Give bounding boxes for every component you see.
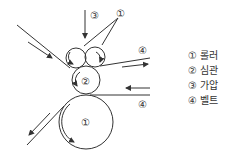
small-roller-right	[85, 47, 105, 67]
label-core: ②	[81, 76, 90, 87]
legend-text: 심관	[200, 65, 218, 76]
legend-text: 벨트	[200, 95, 218, 106]
label-pressure: ③	[90, 10, 99, 21]
legend-item-core: ② 심관	[188, 63, 218, 78]
label-roller-big: ①	[81, 117, 90, 128]
rotation-arrow-core	[75, 72, 80, 86]
legend-num: ④	[188, 95, 197, 106]
output-line-bottom-left	[27, 106, 64, 145]
leader-line	[84, 18, 118, 46]
legend-text: 가압	[200, 80, 218, 91]
legend-item-roller: ① 롤러	[188, 48, 218, 63]
label-belt-top: ④	[138, 45, 147, 56]
legend-num: ②	[188, 65, 197, 76]
leader-line	[102, 18, 118, 45]
rotation-arrow-left	[68, 52, 73, 64]
legend-text: 롤러	[200, 50, 218, 61]
legend: ① 롤러 ② 심관 ③ 가압 ④ 벨트	[188, 48, 218, 108]
label-roller-top: ①	[116, 8, 125, 19]
legend-item-pressure: ③ 가압	[188, 78, 218, 93]
arrow-top-right	[122, 64, 148, 67]
legend-num: ③	[188, 80, 197, 91]
label-belt-right: ④	[138, 99, 147, 110]
rotation-arrow-right	[96, 52, 101, 62]
feed-line-top-left	[17, 25, 70, 68]
legend-num: ①	[188, 50, 197, 61]
legend-item-belt: ④ 벨트	[188, 93, 218, 108]
